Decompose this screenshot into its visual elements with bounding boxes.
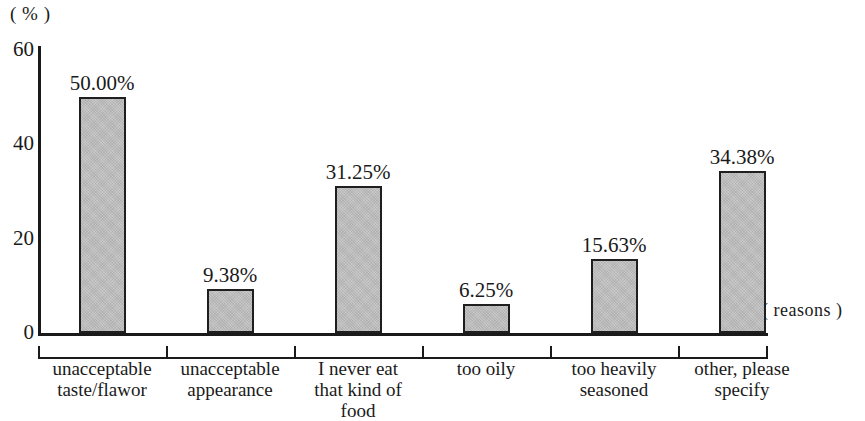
- category-label-line: specify: [678, 379, 806, 400]
- category-label: too heavilyseasoned: [550, 358, 678, 400]
- category-label-line: other, please: [678, 358, 806, 379]
- category-label-line: food: [294, 400, 422, 421]
- bar-value-label: 50.00%: [70, 73, 135, 94]
- category-label-line: taste/flawor: [38, 379, 166, 400]
- bar: [335, 186, 382, 333]
- y-axis-tick-label: 60: [13, 39, 34, 60]
- bar-value-label: 6.25%: [459, 280, 513, 301]
- bar: [591, 259, 638, 333]
- plot-area: 50.00%9.38%31.25%6.25%15.63%34.38%: [40, 48, 768, 333]
- category-label-line: unacceptable: [166, 358, 294, 379]
- x-axis-unit-label: ( reasons ): [762, 300, 842, 321]
- category-label: other, pleasespecify: [678, 358, 806, 400]
- y-axis-tick-label: 0: [24, 322, 35, 343]
- category-label-line: unacceptable: [38, 358, 166, 379]
- x-axis-line: [38, 333, 768, 336]
- category-axis-labels: unacceptabletaste/flaworunacceptableappe…: [38, 358, 768, 413]
- category-label-line: appearance: [166, 379, 294, 400]
- category-label: unacceptabletaste/flawor: [38, 358, 166, 400]
- category-label-line: that kind of: [294, 379, 422, 400]
- category-label-line: too heavily: [550, 358, 678, 379]
- bar-value-label: 9.38%: [203, 265, 257, 286]
- bar-value-label: 31.25%: [326, 162, 391, 183]
- y-axis-tick-label: 20: [13, 228, 34, 249]
- category-label: I never eatthat kind offood: [294, 358, 422, 421]
- bar-value-label: 15.63%: [582, 235, 647, 256]
- bar: [719, 171, 766, 333]
- bar: [207, 289, 254, 333]
- bar: [463, 304, 510, 333]
- y-axis-ticks: 0204060: [0, 0, 34, 411]
- bar: [79, 97, 126, 333]
- bar-value-label: 34.38%: [710, 147, 775, 168]
- y-axis-tick-label: 40: [13, 133, 34, 154]
- category-label-line: too oily: [422, 358, 550, 379]
- category-label: unacceptableappearance: [166, 358, 294, 400]
- category-label-line: seasoned: [550, 379, 678, 400]
- category-label-line: I never eat: [294, 358, 422, 379]
- category-label: too oily: [422, 358, 550, 379]
